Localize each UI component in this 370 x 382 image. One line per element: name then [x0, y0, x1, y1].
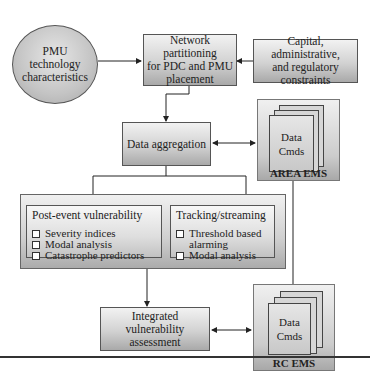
data-aggregation-node: Data aggregation [122, 122, 211, 166]
rc-ems-data: Data [279, 315, 300, 329]
constraints-node: Capital, administrative, and regulatory … [253, 39, 358, 83]
network-line-1: Network partitioning [144, 34, 236, 60]
integrated-line-1: Integrated vulnerability [101, 310, 209, 336]
pmu-line-2: technology [22, 58, 88, 71]
checkbox-icon [176, 230, 184, 238]
page-stack-front: Data Cmds [269, 115, 314, 172]
vulnerability-analysis-group: Post-event vulnerability Severity indice… [20, 194, 286, 269]
area-ems-cmds: Cmds [279, 144, 305, 158]
rc-ems-cmds: Cmds [277, 329, 303, 343]
area-ems-title: AREA EMS [258, 167, 339, 179]
area-ems-node: Data Cmds AREA EMS [257, 99, 340, 181]
constraints-line-2: and regulatory [254, 61, 357, 74]
checkbox-icon [32, 241, 40, 249]
bottom-rule [0, 356, 370, 358]
network-line-3: placement [144, 73, 236, 86]
list-item: Catastrophe predictors [32, 250, 156, 261]
area-ems-data: Data [281, 130, 302, 144]
pmu-technology-node: PMU technology characteristics [12, 25, 98, 104]
checkbox-icon [32, 230, 40, 238]
checkbox-icon [32, 252, 40, 260]
tracking-streaming-node: Tracking/streaming Threshold basedalarmi… [170, 205, 275, 258]
constraints-line-3: constraints [254, 74, 357, 87]
tracking-title: Tracking/streaming [176, 210, 269, 221]
post-event-vulnerability-node: Post-event vulnerability Severity indice… [26, 205, 162, 258]
rc-ems-title: RC EMS [254, 357, 334, 369]
list-item: Modal analysis [176, 250, 269, 261]
checkbox-icon [176, 252, 184, 260]
network-partitioning-node: Network partitioning for PDC and PMU pla… [143, 34, 237, 86]
post-event-title: Post-event vulnerability [32, 210, 156, 221]
pmu-line-1: PMU [22, 45, 88, 58]
constraints-line-1: Capital, administrative, [254, 35, 357, 61]
integrated-vulnerability-node: Integrated vulnerability assessment [100, 307, 210, 351]
network-line-2: for PDC and PMU [144, 60, 236, 73]
integrated-line-2: assessment [101, 336, 209, 349]
page-stack-front: Data Cmds [268, 303, 311, 355]
list-item: Threshold basedalarming [176, 228, 269, 250]
pmu-line-3: characteristics [22, 71, 88, 84]
data-aggregation-label: Data aggregation [127, 138, 206, 151]
